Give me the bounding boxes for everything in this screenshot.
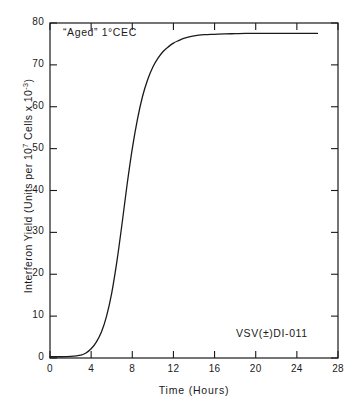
y-tick-label-50: 50 xyxy=(20,142,44,153)
y-axis-ticks xyxy=(50,23,57,358)
y-tick-label-10: 10 xyxy=(20,309,44,320)
y-tick-label-60: 60 xyxy=(20,100,44,111)
x-tick-label-20: 20 xyxy=(244,363,268,374)
y-tick-label-70: 70 xyxy=(20,58,44,69)
interferon-yield-chart: Interferon Yield (Units per 107 Cells x … xyxy=(0,0,358,406)
y-tick-label-20: 20 xyxy=(20,267,44,278)
y-axis-title-suffix: ) xyxy=(22,79,34,83)
x-tick-label-4: 4 xyxy=(79,363,103,374)
x-tick-label-0: 0 xyxy=(38,363,62,374)
y-axis-title-sup-scale: -3 xyxy=(21,83,30,90)
x-tick-label-28: 28 xyxy=(326,363,350,374)
virus-annotation: VSV(±)DI-011 xyxy=(236,327,308,339)
x-tick-label-8: 8 xyxy=(120,363,144,374)
x-tick-label-12: 12 xyxy=(161,363,185,374)
sample-annotation: “Aged” 1°CEC xyxy=(63,26,137,38)
x-tick-label-16: 16 xyxy=(203,363,227,374)
plot-canvas xyxy=(0,0,358,406)
y-tick-label-80: 80 xyxy=(20,16,44,27)
axis-frame xyxy=(50,23,338,358)
x-tick-label-24: 24 xyxy=(285,363,309,374)
y-tick-label-30: 30 xyxy=(20,225,44,236)
y-axis-ticks-right xyxy=(331,23,338,358)
x-axis-title: Time (Hours) xyxy=(50,384,338,396)
plot-border xyxy=(50,23,338,358)
y-tick-label-40: 40 xyxy=(20,184,44,195)
data-series-line xyxy=(50,33,317,356)
y-tick-label-0: 0 xyxy=(20,351,44,362)
y-axis-title-middle: Cells x 10 xyxy=(22,90,34,143)
x-axis-ticks xyxy=(50,351,338,358)
